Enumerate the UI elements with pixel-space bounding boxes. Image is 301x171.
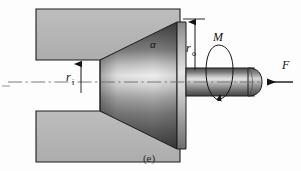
figure-container: r i r o α M F (e) (e) r i	[0, 0, 301, 171]
label-inner-radius: r	[66, 70, 71, 84]
label-inner-radius-subscript: i	[72, 78, 75, 87]
dimension-inner-radius: r i	[66, 64, 81, 93]
label-moment: M	[212, 30, 224, 44]
cone-clutch-diagram: r i r o α M F (e)	[0, 0, 301, 171]
force-annotation: F	[268, 58, 293, 82]
label-cone-angle: α	[150, 38, 156, 50]
cone-angle-annotation: α	[150, 38, 156, 50]
label-force: F	[281, 58, 290, 72]
figure-caption: (e)	[143, 152, 156, 165]
label-outer-radius: r	[186, 41, 191, 55]
cone-large-end-face	[177, 22, 186, 149]
label-outer-radius-subscript: o	[192, 49, 196, 58]
